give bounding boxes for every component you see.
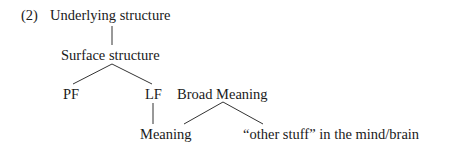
node-meaning: Meaning: [140, 126, 192, 142]
edge-broad-meaning: [184, 102, 223, 124]
node-surface-structure: Surface structure: [61, 47, 160, 63]
node-underlying-structure: Underlying structure: [50, 7, 170, 23]
edge-broad-other: [223, 102, 263, 124]
node-pf: PF: [63, 86, 79, 102]
example-number: (2): [21, 7, 38, 23]
edge-surface-pf: [73, 64, 112, 84]
node-lf: LF: [145, 86, 162, 102]
node-other-stuff: “other stuff” in the mind/brain: [243, 126, 419, 142]
node-broad-meaning: Broad Meaning: [177, 86, 268, 102]
edge-surface-lf: [112, 64, 152, 84]
